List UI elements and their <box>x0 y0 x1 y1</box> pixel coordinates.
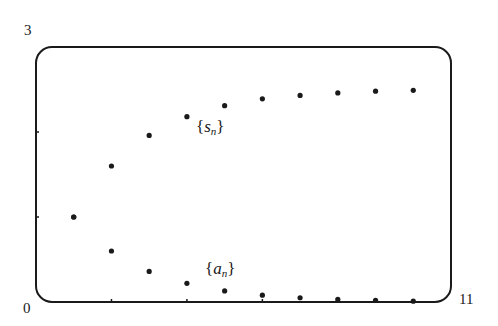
data-point-a <box>335 297 340 302</box>
data-point-s <box>297 93 302 98</box>
data-point-a <box>260 293 265 298</box>
series-label-a: {an} <box>205 259 235 279</box>
series-label-s: {sn} <box>196 117 224 137</box>
data-point-a <box>222 288 227 293</box>
y-axis-max-label: 3 <box>24 22 32 39</box>
x-axis-max-label: 11 <box>459 291 473 308</box>
data-point-s <box>147 133 152 138</box>
plot-frame <box>36 47 451 302</box>
data-point-a <box>411 299 416 304</box>
origin-label: 0 <box>23 300 31 317</box>
data-point-a <box>373 298 378 303</box>
data-point-a <box>109 248 114 253</box>
data-point-s <box>222 103 227 108</box>
data-point-s <box>373 89 378 94</box>
data-point-s <box>411 88 416 93</box>
data-point-a <box>71 214 76 219</box>
data-point-s <box>109 163 114 168</box>
chart-plot-area <box>0 0 498 326</box>
data-point-a <box>147 269 152 274</box>
data-point-s <box>335 90 340 95</box>
data-point-a <box>297 295 302 300</box>
data-point-a <box>184 281 189 286</box>
data-point-s <box>260 96 265 101</box>
data-point-s <box>184 114 189 119</box>
